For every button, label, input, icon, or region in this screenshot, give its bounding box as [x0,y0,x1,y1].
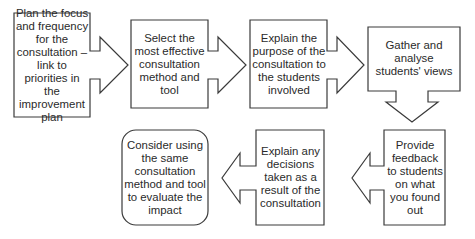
step-2-label: Select the most effective consultation m… [134,21,205,107]
step-3-label: Explain the purpose of the consultation … [252,21,326,107]
step-5-label: Provide feedback to students on what you… [386,132,444,223]
step-6-label: Explain any decisions taken as a result … [258,132,323,223]
step-4-label: Gather and analyse students' views [372,30,456,86]
step-7-label: Consider using the same consultation met… [124,132,206,223]
step-1-label: Plan the focus and frequency for the con… [15,14,89,116]
